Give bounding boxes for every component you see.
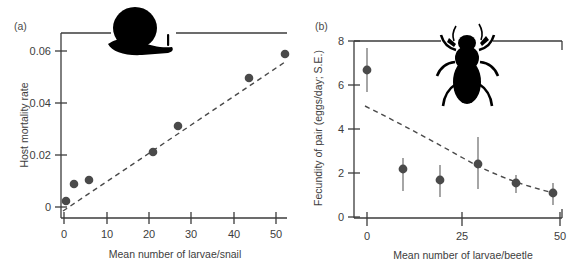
data-point [399,165,408,174]
data-point [149,148,158,157]
y-ticklabel-2-b: 2 [338,167,344,179]
x-ticklabel-25-b: 25 [456,230,468,242]
data-point [474,160,483,169]
data-point [363,66,372,75]
y-ticklabel-8-b: 8 [338,35,344,47]
x-ticklabel-40-a: 40 [228,228,240,240]
y-ticklabel-6-b: 6 [338,79,344,91]
panel-b-x-ticks [367,212,560,226]
data-point [174,122,183,131]
y-ticklabel-006-a: 0.06 [30,45,51,57]
data-point [436,176,445,185]
panel-a-x-ticklabels: 0 10 20 30 40 50 [61,228,282,240]
data-point [245,74,254,83]
panel-a-svg: (a) 0.06 0.04 0.02 0 [0,0,290,269]
data-point [549,189,558,198]
x-ticklabel-30-a: 30 [185,228,197,240]
x-ticklabel-20-a: 20 [143,228,155,240]
panel-a-label: (a) [14,20,27,32]
trendline-b [365,106,554,193]
x-ticklabel-0-b: 0 [364,230,370,242]
x-axis-label-a: Mean number of larvae/snail [109,248,242,260]
y-ticklabel-0-b: 0 [338,211,344,223]
x-ticklabel-50-b: 50 [554,230,566,242]
y-ticklabel-004-a: 0.04 [30,97,51,109]
panel-b-y-ticklabels: 8 6 4 2 0 [338,35,344,223]
data-point [70,180,79,189]
y-ticklabel-002-a: 0.02 [30,149,51,161]
x-axis-label-b: Mean number of larvae/beetle [393,249,533,261]
data-point [85,176,94,185]
panel-a-y-ticklabels: 0.06 0.04 0.02 0 [30,45,51,213]
trendline-a [63,62,285,211]
data-point [512,179,521,188]
chart-panel-b: (b) 8 6 4 2 [291,0,581,269]
y-axis-label-b: Fecundity of pair (eggs/day; S.E.) [312,50,324,206]
y-ticklabel-000-a: 0 [45,201,51,213]
beetle-silhouette [437,24,498,106]
chart-panel-a: (a) 0.06 0.04 0.02 0 [0,0,290,269]
y-axis-label-a: Host mortality rate [18,82,30,167]
y-ticklabel-4-b: 4 [338,123,344,135]
data-point [281,50,290,59]
panel-a-data-points [62,50,290,206]
data-point [62,197,71,206]
panel-b-label: (b) [315,20,328,32]
snail-silhouette [108,7,173,55]
x-ticklabel-50-a: 50 [270,228,282,240]
figure-container: (a) 0.06 0.04 0.02 0 [0,0,581,269]
x-ticklabel-10-a: 10 [101,228,113,240]
panel-b-x-ticklabels: 0 25 50 [364,230,566,242]
x-ticklabel-0-a: 0 [61,228,67,240]
panel-b-svg: (b) 8 6 4 2 [291,0,581,269]
